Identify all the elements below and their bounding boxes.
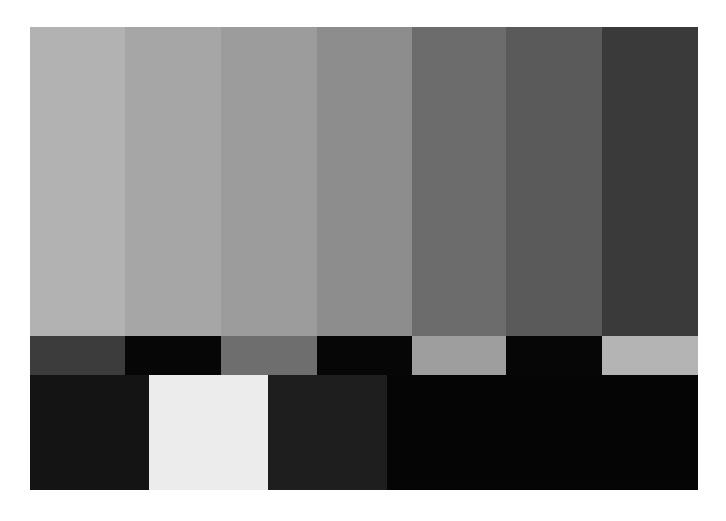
mid-7 [602, 336, 698, 375]
bottom-4 [387, 375, 698, 490]
mid-3 [221, 336, 317, 375]
mid-2 [125, 336, 221, 375]
bar-3 [221, 27, 317, 336]
bottom-3 [268, 375, 387, 490]
top-bars-row [30, 27, 698, 336]
bar-2 [125, 27, 221, 336]
mid-6 [506, 336, 602, 375]
mid-5 [412, 336, 506, 375]
bottom-blocks-row [30, 375, 698, 490]
mid-4 [317, 336, 412, 375]
bar-6 [506, 27, 602, 336]
bar-4 [317, 27, 412, 336]
bar-1 [30, 27, 125, 336]
mid-1 [30, 336, 125, 375]
test-pattern [30, 27, 698, 490]
bar-7 [602, 27, 698, 336]
bar-5 [412, 27, 506, 336]
bottom-1 [30, 375, 149, 490]
bottom-2 [149, 375, 268, 490]
middle-bars-row [30, 336, 698, 375]
